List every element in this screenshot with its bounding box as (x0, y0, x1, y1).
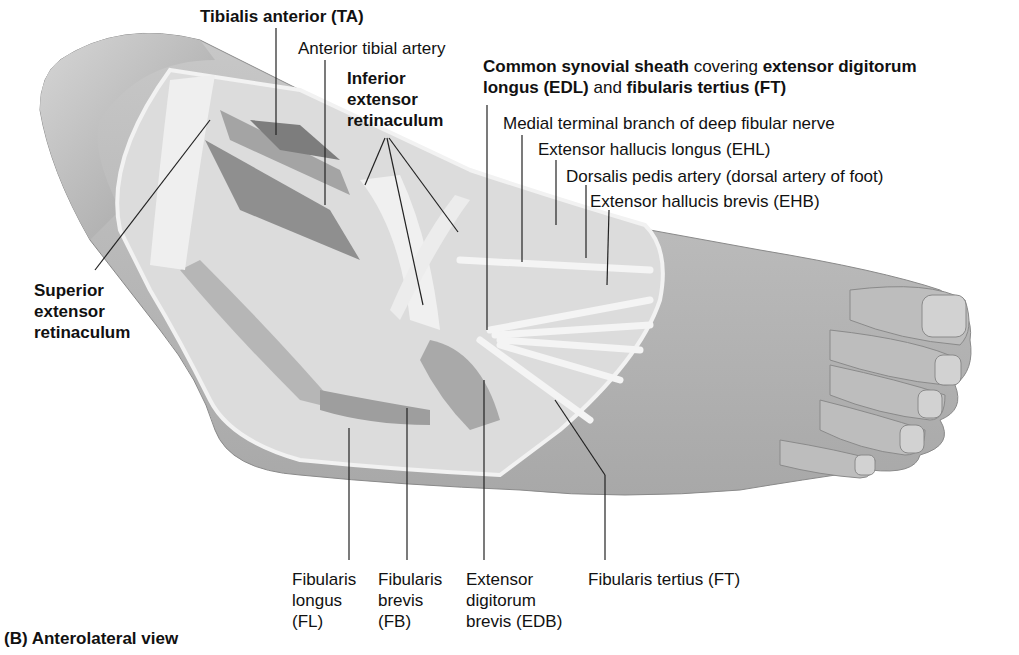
anatomy-figure: Tibialis anterior (TA) Anterior tibial a… (0, 0, 1019, 655)
label-extensor-hallucis-brevis: Extensor hallucis brevis (EHB) (590, 191, 820, 212)
label-fibularis-brevis: Fibularis brevis (FB) (378, 569, 442, 632)
foot-illustration (0, 0, 1019, 655)
label-fibularis-tertius: Fibularis tertius (FT) (588, 569, 740, 590)
label-superior-extensor-retinaculum: Superior extensor retinaculum (34, 280, 130, 343)
label-fibularis-longus: Fibularis longus (FL) (292, 569, 356, 632)
label-inferior-extensor-retinaculum: Inferior extensor retinaculum (347, 68, 443, 131)
label-anterior-tibial-artery: Anterior tibial artery (298, 38, 445, 59)
label-extensor-digitorum-brevis: Extensor digitorum brevis (EDB) (466, 569, 562, 632)
label-extensor-hallucis-longus: Extensor hallucis longus (EHL) (538, 139, 770, 160)
label-tibialis-anterior: Tibialis anterior (TA) (200, 6, 364, 27)
label-dorsalis-pedis-artery: Dorsalis pedis artery (dorsal artery of … (566, 166, 883, 187)
figure-caption: (B) Anterolateral view (4, 628, 178, 649)
label-medial-terminal-branch: Medial terminal branch of deep fibular n… (503, 113, 835, 134)
label-common-synovial-sheath: Common synovial sheath covering extensor… (483, 56, 917, 98)
